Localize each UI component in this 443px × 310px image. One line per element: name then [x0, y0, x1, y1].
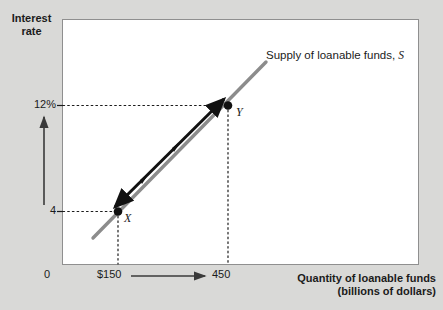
- y-tick-label-12-percent: 12%: [26, 98, 56, 110]
- x-tick-label-150: $150: [97, 268, 121, 280]
- movement-arrow: [115, 99, 224, 207]
- x-axis-title: Quantity of loanable funds (billions of …: [268, 272, 436, 298]
- data-point-label-Y: Y: [236, 105, 243, 120]
- data-point-label-X: X: [124, 211, 131, 226]
- origin-label: 0: [44, 268, 50, 280]
- x-axis-title-line1: Quantity of loanable funds: [268, 272, 436, 285]
- supply-curve-symbol: S: [398, 49, 404, 61]
- data-point-Y: [224, 101, 233, 110]
- data-point-X: [114, 207, 123, 216]
- supply-curve-label: Supply of loanable funds, S: [266, 49, 404, 61]
- x-tick-label-450: 450: [212, 268, 230, 280]
- supply-curve-label-text: Supply of loanable funds,: [266, 49, 398, 61]
- x-axis-title-line2: (billions of dollars): [268, 285, 436, 298]
- y-axis-title: Interest rate: [4, 12, 59, 38]
- figure-container: Interest rate Quantity of loanable funds…: [0, 0, 443, 310]
- chart-graphics: [0, 0, 443, 310]
- y-tick-label-4: 4: [26, 204, 56, 216]
